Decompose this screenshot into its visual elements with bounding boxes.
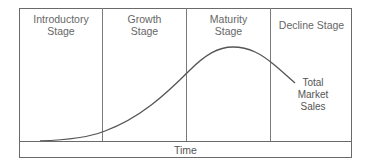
curve-label-line2: Market (296, 89, 330, 101)
time-axis-label: Time (19, 143, 352, 157)
curve-label-line3: Sales (296, 101, 330, 113)
time-axis-row: Time (19, 141, 352, 158)
sales-curve-path (40, 47, 295, 141)
curve-label-total-market-sales: Total Market Sales (296, 77, 330, 113)
curve-label-line1: Total (296, 77, 330, 89)
